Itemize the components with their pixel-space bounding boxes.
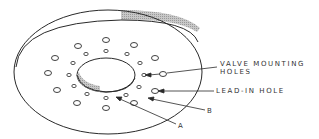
valve-mounting-hole xyxy=(160,72,167,77)
label-callout-b: B xyxy=(207,107,213,115)
label-valve-mounting-line1: VALVE MOUNTING xyxy=(220,60,305,68)
label-valve-mounting-holes: VALVE MOUNTING HOLES xyxy=(220,60,305,76)
leader-b xyxy=(148,97,205,110)
label-lead-in-hole: LEAD-IN HOLE xyxy=(216,87,285,95)
disc-diagram: VALVE MOUNTING HOLES LEAD-IN HOLE B A xyxy=(0,0,319,139)
label-valve-mounting-line2: HOLES xyxy=(220,68,305,76)
label-callout-a: A xyxy=(178,122,184,130)
leader-a xyxy=(116,97,176,124)
leader-valve-mounting xyxy=(145,67,217,77)
leader-lead-in xyxy=(158,89,214,93)
rim-shading xyxy=(121,10,200,32)
